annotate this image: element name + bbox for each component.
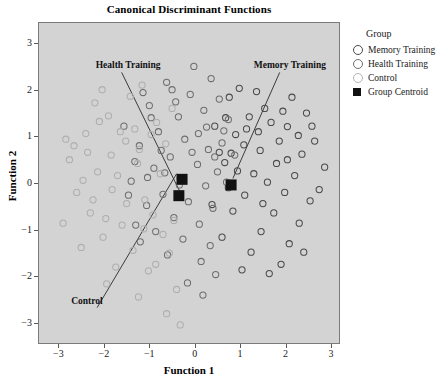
scatter-point bbox=[295, 132, 301, 138]
scatter-point bbox=[154, 119, 160, 125]
scatter-point bbox=[78, 244, 84, 250]
scatter-point bbox=[212, 123, 218, 129]
scatter-point bbox=[74, 189, 80, 195]
scatter-point bbox=[160, 231, 166, 237]
scatter-point bbox=[136, 146, 142, 152]
scatter-point bbox=[282, 189, 288, 195]
y-tick-mark bbox=[34, 136, 38, 137]
scatter-point bbox=[133, 222, 139, 228]
scatter-point bbox=[255, 129, 261, 135]
legend-item[interactable]: Control bbox=[352, 71, 442, 84]
scatter-point bbox=[200, 292, 206, 298]
scatter-point bbox=[128, 178, 134, 184]
y-tick-mark bbox=[34, 230, 38, 231]
scatter-point bbox=[284, 157, 290, 163]
scatter-point bbox=[264, 179, 270, 185]
scatter-point bbox=[92, 100, 98, 106]
plot-annotation: Memory Training bbox=[254, 60, 326, 70]
scatter-point bbox=[221, 128, 227, 134]
scatter-point bbox=[167, 154, 173, 160]
scatter-point bbox=[96, 118, 102, 124]
scatter-point bbox=[222, 159, 228, 165]
scatter-point bbox=[84, 149, 90, 155]
legend-item[interactable]: Group Centroid bbox=[352, 85, 442, 98]
scatter-point bbox=[203, 183, 209, 189]
scatter-point bbox=[177, 322, 183, 328]
scatter-point bbox=[213, 271, 219, 277]
scatter-point bbox=[219, 140, 225, 146]
y-tick-label: 3 bbox=[10, 37, 32, 49]
scatter-point bbox=[164, 79, 170, 85]
scatter-point bbox=[100, 234, 106, 240]
scatter-point bbox=[163, 141, 169, 147]
x-tick-label: 0 bbox=[182, 348, 208, 359]
scatter-point bbox=[169, 105, 175, 111]
plot-annotation: Control bbox=[71, 296, 103, 306]
scatter-point bbox=[146, 103, 152, 109]
chart-figure: · · · · · · · · · · · · Canonical Discri… bbox=[0, 0, 444, 386]
scatter-point bbox=[241, 142, 247, 148]
annotation-leader-line bbox=[122, 72, 181, 193]
scatter-point bbox=[219, 234, 225, 240]
scatter-point bbox=[236, 85, 242, 91]
group-centroid-marker bbox=[226, 179, 237, 190]
scatter-point bbox=[273, 160, 279, 166]
scatter-point bbox=[187, 91, 193, 97]
plot-annotation: Health Training bbox=[96, 60, 161, 70]
scatter-point bbox=[239, 267, 245, 273]
scatter-point bbox=[174, 286, 180, 292]
legend-item[interactable]: Memory Training bbox=[352, 43, 442, 56]
scatter-point bbox=[242, 192, 248, 198]
legend-items: Memory TrainingHealth TrainingControlGro… bbox=[352, 43, 442, 98]
legend-item[interactable]: Health Training bbox=[352, 57, 442, 70]
scatter-point bbox=[185, 199, 191, 205]
y-tick-mark bbox=[34, 90, 38, 91]
group-centroid-marker bbox=[173, 190, 184, 201]
scatter-point bbox=[151, 165, 157, 171]
scatter-point bbox=[114, 173, 120, 179]
scatter-point bbox=[260, 201, 266, 207]
scatter-point bbox=[307, 198, 313, 204]
scatter-point bbox=[145, 268, 151, 274]
scatter-point bbox=[148, 115, 154, 121]
scatter-point bbox=[104, 281, 110, 287]
scatter-point bbox=[268, 119, 274, 125]
scatter-point bbox=[123, 138, 129, 144]
legend-item-label: Health Training bbox=[368, 59, 428, 69]
scatter-point bbox=[142, 197, 148, 203]
y-tick-mark bbox=[34, 183, 38, 184]
scatter-point bbox=[208, 75, 214, 81]
open-circle-icon bbox=[352, 44, 364, 56]
scatter-point bbox=[253, 89, 259, 95]
scatter-point bbox=[137, 239, 143, 245]
scatter-point bbox=[180, 236, 186, 242]
legend: Group Memory TrainingHealth TrainingCont… bbox=[352, 28, 442, 99]
scatter-point bbox=[164, 311, 170, 317]
scatter-point bbox=[207, 243, 213, 249]
scatter-point bbox=[316, 187, 322, 193]
scatter-point bbox=[140, 89, 146, 95]
scatter-point bbox=[94, 169, 100, 175]
scatter-point bbox=[135, 294, 141, 300]
scatter-point bbox=[276, 138, 282, 144]
scatter-point bbox=[191, 63, 197, 69]
scatter-point bbox=[299, 151, 305, 157]
scatter-point bbox=[132, 126, 138, 132]
scatter-point bbox=[248, 249, 254, 255]
scatter-point bbox=[271, 210, 277, 216]
y-axis-title: Function 2 bbox=[6, 126, 18, 226]
scatter-point bbox=[280, 108, 286, 114]
scatter-point bbox=[286, 241, 292, 247]
scatter-point bbox=[233, 131, 239, 137]
scatter-point bbox=[309, 123, 315, 129]
scatter-point bbox=[109, 187, 115, 193]
scatter-point bbox=[119, 222, 125, 228]
scatter-point bbox=[232, 152, 238, 158]
scatter-point bbox=[99, 87, 105, 93]
y-tick-label: −2 bbox=[10, 270, 32, 282]
scatter-point bbox=[169, 87, 175, 93]
scatter-point bbox=[296, 220, 302, 226]
scatter-point bbox=[194, 161, 200, 167]
scatter-point bbox=[243, 126, 249, 132]
scatter-point bbox=[292, 173, 298, 179]
